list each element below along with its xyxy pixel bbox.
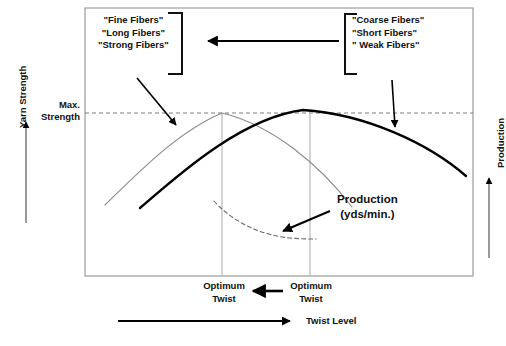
optimum-twist-left-line-1: Optimum	[196, 280, 252, 293]
max-strength-line-2: Strength	[40, 111, 80, 123]
coarse-fibers-callout: "Coarse Fibers" "Short Fibers" " Weak Fi…	[352, 14, 424, 52]
max-strength-line-1: Max.	[40, 99, 80, 111]
fine-fibers-callout: "Fine Fibers" "Long Fibers" "Strong Fibe…	[98, 14, 169, 52]
max-strength-label: Max. Strength	[40, 99, 80, 123]
optimum-twist-right-label: Optimum Twist	[283, 280, 339, 305]
fine-fibers-line-2: "Long Fibers"	[98, 27, 169, 40]
left-y-axis-title: Yarn Strength	[17, 66, 28, 128]
optimum-twist-right-line-2: Twist	[283, 293, 339, 306]
coarse-fibers-line-3: " Weak Fibers"	[352, 39, 424, 52]
optimum-twist-left-line-2: Twist	[196, 293, 252, 306]
production-callout-line-2: (yds/min.)	[337, 207, 398, 222]
coarse-fibers-pointer-arrow	[392, 80, 395, 127]
figure-canvas	[0, 0, 506, 346]
production-callout: Production (yds/min.)	[337, 192, 398, 222]
production-curve	[214, 201, 316, 239]
production-pointer-arrow	[283, 211, 330, 231]
right-y-axis-title: Production	[495, 118, 506, 168]
optimum-twist-left-label: Optimum Twist	[196, 280, 252, 305]
fine-fibers-bracket	[168, 13, 182, 74]
fine-fibers-pointer-arrow	[137, 78, 176, 125]
optimum-twist-right-line-1: Optimum	[283, 280, 339, 293]
yarn-strength-curve-fine-fibers	[105, 113, 352, 207]
coarse-fibers-line-1: "Coarse Fibers"	[352, 14, 424, 27]
coarse-fibers-line-2: "Short Fibers"	[352, 27, 424, 40]
fine-fibers-line-1: "Fine Fibers"	[98, 14, 169, 27]
production-callout-line-1: Production	[337, 192, 398, 207]
yarn-strength-curve-coarse-fibers	[140, 110, 466, 208]
yarn-strength-twist-level-figure: "Fine Fibers" "Long Fibers" "Strong Fibe…	[0, 0, 506, 346]
fine-fibers-line-3: "Strong Fibers"	[98, 39, 169, 52]
x-axis-title: Twist Level	[306, 315, 357, 328]
